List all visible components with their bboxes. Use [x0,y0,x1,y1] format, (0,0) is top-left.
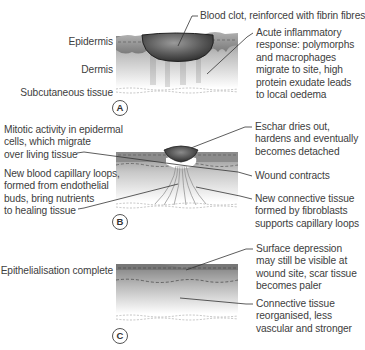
panel-marker-a: A [112,100,128,116]
text-line: supports capillary loops [255,218,359,230]
text-line: wound site, scar tissue [256,268,357,280]
text-line: and macrophages [256,52,354,64]
text-line: becomes detached [255,146,358,158]
panel-marker-b: B [112,214,128,230]
text-line: Surface depression [256,243,357,255]
label-new-connective-tissue: New connective tissue formed by fibrobla… [255,193,359,230]
text-line: formed by fibroblasts [255,205,359,217]
text-line: formed from endothelial [4,180,120,192]
text-line: Mitotic activity in epidermal [4,124,123,136]
text-line: hardens and eventually [255,133,358,145]
label-mitotic-activity: Mitotic activity in epidermal cells, whi… [4,124,123,161]
label-connective-tissue-reorganised: Connective tissue reorganised, less vasc… [256,298,352,335]
text-line: Connective tissue [256,298,352,310]
text-line: New connective tissue [255,193,359,205]
text-line: may still be visible at [256,255,357,267]
label-epithelialisation-complete: Epithelialisation complete [1,265,113,277]
label-epidermis: Epidermis [69,36,113,48]
label-subcutaneous-tissue: Subcutaneous tissue [20,87,113,99]
text-line: reorganised, less [256,310,352,322]
label-blood-clot: Blood clot, reinforced with fibrin fibre… [200,10,365,22]
text-line: migrate to site, high [256,64,354,76]
text-line: cells, which migrate [4,136,123,148]
label-surface-depression: Surface depression may still be visible … [256,243,357,293]
label-capillary-loops: New blood capillary loops, formed from e… [4,168,120,218]
text-line: vascular and stronger [256,323,352,335]
panel-marker-c: C [112,328,128,344]
text-line: to healing tissue [4,205,120,217]
text-line: response: polymorphs [256,39,354,51]
label-dermis: Dermis [81,64,113,76]
text-line: becomes paler [256,280,357,292]
panel-b-tissue [116,146,238,208]
text-line: to local oedema [256,89,354,101]
label-wound-contracts: Wound contracts [255,170,330,182]
label-eschar: Eschar dries out, hardens and eventually… [255,121,358,158]
panel-c-tissue [116,264,238,320]
text-line: buds, bring nutrients [4,193,120,205]
text-line: New blood capillary loops, [4,168,120,180]
text-line: over living tissue [4,149,123,161]
text-line: Acute inflammatory [256,27,354,39]
text-line: Eschar dries out, [255,121,358,133]
text-line: protein exudate leads [256,77,354,89]
label-inflammatory-response: Acute inflammatory response: polymorphs … [256,27,354,101]
